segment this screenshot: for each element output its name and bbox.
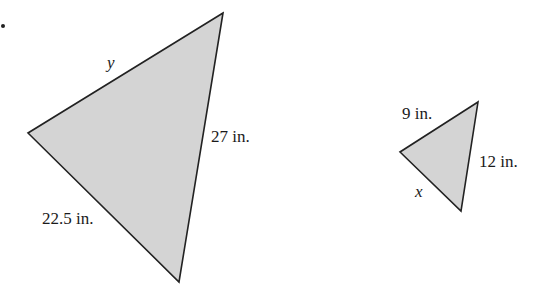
bullet-dot bbox=[1, 24, 5, 28]
label-12in: 12 in. bbox=[479, 153, 518, 170]
label-22-5in: 22.5 in. bbox=[42, 210, 93, 227]
label-27in: 27 in. bbox=[211, 128, 250, 145]
similar-triangles-figure bbox=[0, 0, 539, 300]
label-9in: 9 in. bbox=[402, 105, 432, 122]
label-y: y bbox=[107, 54, 115, 71]
large-triangle bbox=[28, 13, 223, 282]
label-x: x bbox=[415, 183, 423, 200]
